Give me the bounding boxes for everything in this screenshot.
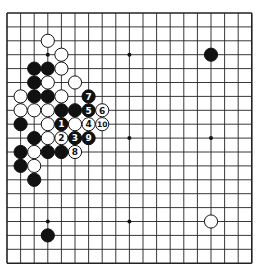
stone-body — [204, 215, 217, 228]
white-stone — [55, 48, 68, 61]
stone-body — [204, 48, 217, 61]
white-stone — [41, 76, 54, 89]
move-number: 7 — [85, 92, 91, 102]
move-number: 9 — [85, 133, 91, 143]
white-stone — [41, 118, 54, 131]
stone-body — [41, 34, 54, 47]
black-stone — [55, 104, 68, 117]
go-board: 75614102398 — [0, 0, 256, 273]
move-number: 2 — [58, 133, 64, 143]
stone-body — [14, 159, 27, 172]
move-number: 8 — [72, 147, 78, 157]
stone-body — [28, 145, 41, 158]
stone-body — [14, 90, 27, 103]
stone-body — [55, 90, 68, 103]
stone-body — [41, 62, 54, 75]
black-stone — [14, 118, 27, 131]
stone-body — [41, 145, 54, 158]
black-stone: 1 — [55, 118, 68, 131]
white-stone — [204, 215, 217, 228]
stone-body — [41, 118, 54, 131]
stone-body — [14, 145, 27, 158]
stone-body — [41, 132, 54, 145]
white-stone — [55, 62, 68, 75]
white-stone: 6 — [96, 104, 109, 117]
white-stone: 10 — [96, 118, 109, 131]
black-stone — [28, 62, 41, 75]
black-stone — [55, 145, 68, 158]
black-stone — [68, 104, 81, 117]
black-stone — [14, 145, 27, 158]
white-stone — [28, 104, 41, 117]
stone-body — [28, 76, 41, 89]
stone-body — [41, 76, 54, 89]
white-stone — [14, 104, 27, 117]
move-number: 4 — [85, 119, 91, 129]
stone-body — [28, 90, 41, 103]
star-point — [127, 53, 131, 57]
white-stone — [68, 76, 81, 89]
move-number: 3 — [72, 133, 78, 143]
star-point — [127, 220, 131, 224]
stone-body — [28, 132, 41, 145]
black-stone: 3 — [68, 132, 81, 145]
white-stone — [14, 90, 27, 103]
star-point — [127, 136, 131, 140]
move-number: 10 — [97, 120, 107, 129]
stone-body — [41, 229, 54, 242]
star-point — [46, 53, 50, 57]
move-number: 5 — [85, 106, 91, 116]
stone-body — [55, 145, 68, 158]
stone-body — [14, 118, 27, 131]
black-stone: 9 — [82, 132, 95, 145]
stone-body — [14, 104, 27, 117]
star-point — [209, 136, 213, 140]
black-stone — [28, 173, 41, 186]
white-stone — [55, 90, 68, 103]
black-stone: 5 — [82, 104, 95, 117]
black-stone — [41, 62, 54, 75]
stone-body — [68, 104, 81, 117]
stone-body — [55, 104, 68, 117]
white-stone: 8 — [68, 145, 81, 158]
black-stone — [41, 90, 54, 103]
black-stone — [28, 76, 41, 89]
move-number: 6 — [99, 106, 105, 116]
stone-body — [55, 48, 68, 61]
black-stone — [41, 145, 54, 158]
stone-body — [68, 76, 81, 89]
star-point — [46, 220, 50, 224]
move-number: 1 — [58, 119, 64, 129]
white-stone — [41, 104, 54, 117]
white-stone — [28, 145, 41, 158]
white-stone — [41, 34, 54, 47]
white-stone — [68, 118, 81, 131]
black-stone — [204, 48, 217, 61]
stone-body — [41, 104, 54, 117]
stone-body — [28, 159, 41, 172]
stone-body — [41, 90, 54, 103]
black-stone — [14, 159, 27, 172]
black-stone: 7 — [82, 90, 95, 103]
white-stone — [28, 159, 41, 172]
black-stone — [28, 90, 41, 103]
black-stone — [41, 229, 54, 242]
white-stone — [41, 132, 54, 145]
white-stone: 4 — [82, 118, 95, 131]
stone-body — [28, 104, 41, 117]
stone-body — [28, 62, 41, 75]
stone-body — [68, 118, 81, 131]
black-stone — [28, 132, 41, 145]
stone-body — [55, 62, 68, 75]
white-stone: 2 — [55, 132, 68, 145]
stone-body — [28, 173, 41, 186]
